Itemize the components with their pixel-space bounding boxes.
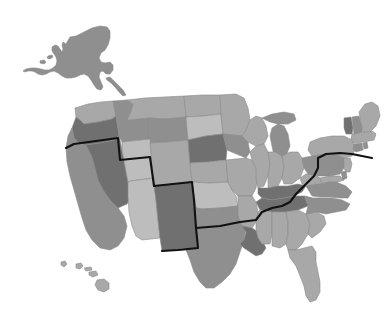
state-new-mexico[interactable] [154, 182, 198, 251]
state-rhode-island[interactable] [363, 142, 368, 149]
state-montana[interactable] [127, 96, 186, 120]
state-north-dakota[interactable] [184, 95, 221, 117]
state-utah[interactable] [122, 139, 154, 182]
state-new-jersey[interactable] [344, 158, 352, 172]
us-choropleth-map-figure [0, 0, 387, 327]
state-wyoming[interactable] [148, 117, 188, 143]
state-arkansas[interactable] [238, 196, 258, 228]
state-colorado[interactable] [150, 140, 192, 186]
state-vermont[interactable] [344, 117, 353, 134]
state-kansas[interactable] [190, 160, 228, 183]
map-canvas [0, 0, 387, 327]
state-connecticut[interactable] [353, 143, 363, 152]
state-alabama[interactable] [272, 212, 288, 248]
state-pennsylvania[interactable] [302, 154, 344, 176]
